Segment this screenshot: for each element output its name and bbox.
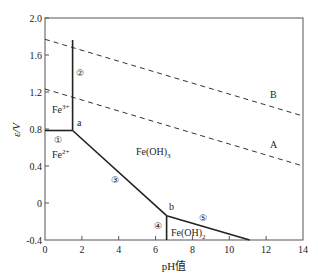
y-axis-label: ε/V: [10, 122, 22, 137]
x-tick-label: 10: [224, 244, 234, 255]
boundary-4-marker: ④: [154, 221, 162, 231]
x-tick-labels: 0 2 4 6 8 10 12 14: [43, 244, 309, 255]
pourbaix-chart: 2.0 1.6 1.2 0.8 0.4 0 -0.4 0 2 4 6 8 10 …: [0, 0, 318, 278]
x-tick-label: 0: [43, 244, 48, 255]
x-tick-label: 6: [153, 244, 158, 255]
line-a-label: A: [270, 139, 278, 150]
boundary-1-marker: ①: [54, 135, 62, 145]
boundary-5-marker: ⑤: [199, 213, 207, 223]
y-tick-labels: 2.0 1.6 1.2 0.8 0.4 0 -0.4: [26, 13, 42, 246]
y-tick-label: 2.0: [30, 13, 43, 24]
y-tick-label: 1.6: [30, 50, 43, 61]
x-tick-label: 14: [298, 244, 308, 255]
feoh3-label: Fe(OH)3: [136, 146, 171, 160]
feoh2-label: Fe(OH)2: [171, 227, 206, 241]
boundary-3-marker: ③: [111, 175, 119, 185]
x-axis-label: pH值: [162, 260, 186, 272]
x-tick-label: 12: [261, 244, 271, 255]
boundary-3: [73, 131, 167, 216]
fe3-label: Fe3+: [52, 103, 70, 115]
y-tick-label: -0.4: [26, 235, 42, 246]
y-tick-label: 0.8: [30, 124, 43, 135]
line-b-label: B: [270, 89, 277, 100]
y-tick-label: 0.4: [30, 161, 43, 172]
x-tick-label: 4: [116, 244, 121, 255]
line-a-dashed: [45, 89, 303, 166]
boundary-2-marker: ②: [76, 68, 84, 78]
y-tick-label: 1.2: [30, 87, 43, 98]
x-tick-label: 2: [79, 244, 84, 255]
y-axis: [45, 18, 49, 203]
point-b-label: b: [169, 201, 174, 212]
fe2-label: Fe2+: [52, 148, 70, 160]
y-tick-label: 0: [37, 198, 42, 209]
point-a-label: a: [77, 117, 82, 128]
x-tick-label: 8: [190, 244, 195, 255]
